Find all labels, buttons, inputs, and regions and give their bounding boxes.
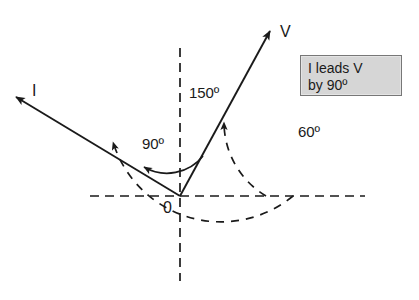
angle-label-150: 150º bbox=[189, 85, 219, 100]
callout-box: I leads V by 90º bbox=[300, 55, 402, 96]
phasor-diagram: 150º 60º 90º V I 0 I leads V by 90º bbox=[0, 0, 419, 300]
callout-line-1: I leads V bbox=[308, 60, 362, 76]
vector-label-v: V bbox=[280, 24, 291, 40]
origin-label: 0 bbox=[163, 200, 172, 216]
callout-text: I leads V by 90º bbox=[308, 60, 362, 94]
angle-label-60: 60º bbox=[298, 124, 320, 139]
vector-v bbox=[180, 31, 270, 196]
angle-label-90: 90º bbox=[142, 136, 164, 151]
arc-60 bbox=[224, 122, 266, 196]
phasor-graphic bbox=[0, 0, 419, 300]
vector-label-i: I bbox=[32, 83, 36, 99]
callout-line-2: by 90º bbox=[308, 77, 362, 94]
